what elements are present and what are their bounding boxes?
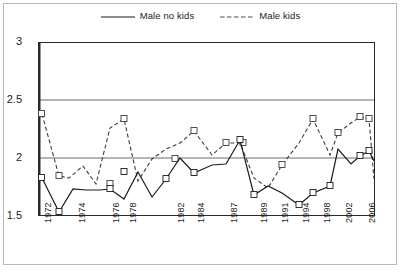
- legend-item-male-no-kids: Male no kids: [101, 10, 195, 21]
- legend-swatch-dashed-line-icon: [220, 12, 254, 20]
- y-axis-tick-3: 3: [0, 35, 22, 47]
- chart-figure: Male no kids Male kids 3 2.5 2 1.5: [0, 0, 401, 274]
- x-axis-tick-1972: 1972: [43, 202, 53, 223]
- x-axis-tick-2002: 2002: [344, 202, 354, 223]
- y-axis-tick-2-5: 2.5: [0, 93, 22, 105]
- x-axis-tick-1978: 1978: [128, 202, 138, 223]
- x-axis-tick-1991: 1991: [280, 202, 290, 223]
- plot-area: [38, 42, 375, 216]
- x-axis-tick-2006: 2006: [367, 202, 377, 223]
- x-axis-tick-1984: 1984: [196, 202, 206, 223]
- x-axis-tick-1998: 1998: [322, 202, 332, 223]
- legend-label-male-kids: Male kids: [259, 10, 300, 21]
- x-axis-tick-1974: 1974: [77, 202, 87, 223]
- y-axis-tick-2: 2: [0, 151, 22, 163]
- y-axis-tick-1-5: 1.5: [0, 209, 22, 221]
- caption-strip: [8, 266, 308, 273]
- x-axis-tick-1987: 1987: [229, 202, 239, 223]
- x-axis-tick-1982: 1982: [176, 202, 186, 223]
- x-axis-tick-1994: 1994: [301, 202, 311, 223]
- chart-canvas: [38, 42, 375, 216]
- legend-item-male-kids: Male kids: [220, 10, 300, 21]
- legend-label-male-no-kids: Male no kids: [140, 10, 195, 21]
- legend-swatch-solid-line-icon: [101, 12, 135, 20]
- x-axis-tick-1976: 1976: [111, 202, 121, 223]
- chart-legend: Male no kids Male kids: [0, 10, 401, 21]
- x-axis-tick-1989: 1989: [259, 202, 269, 223]
